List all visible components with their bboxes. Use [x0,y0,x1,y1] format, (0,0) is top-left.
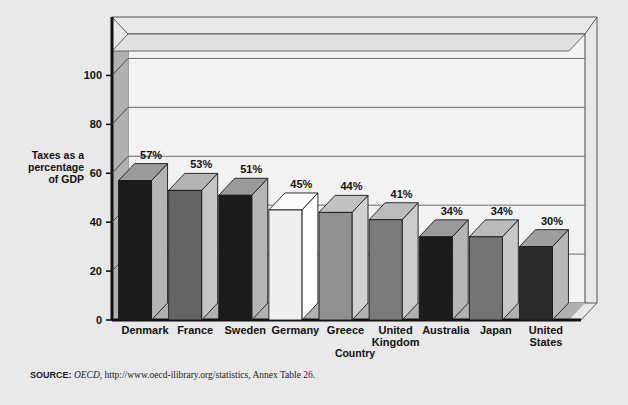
bar-side-face [202,173,218,320]
outer-frame-right [585,17,597,34]
x-axis-title: Country [335,347,375,359]
bar-front-face [369,220,402,320]
bar-value-label: 45% [290,178,312,190]
y-tick-label: 0 [96,314,102,326]
outer-frame-corner [112,17,128,34]
bar [469,220,518,320]
bar [369,203,418,320]
y-tick-label: 100 [84,69,102,81]
y-tick-label: 40 [90,216,102,228]
y-tick-labels: 020406080100 [84,69,102,326]
chart-figure: 020406080100 57%53%51%45%44%41%34%34%30%… [0,0,628,405]
bar-value-label: 41% [391,188,413,200]
x-category-label: Denmark [122,324,170,336]
bar-value-label: 53% [190,158,212,170]
bar [119,164,168,320]
x-category-label: Australia [422,324,470,336]
bar-front-face [319,212,352,320]
bar [219,178,268,320]
bar-value-label: 30% [541,215,563,227]
bar-front-face [419,237,452,320]
x-category-label: Sweden [224,324,266,336]
bar-chart-svg: 020406080100 57%53%51%45%44%41%34%34%30%… [0,0,628,405]
source-note: SOURCE: OECD, http://www.oecd-ilibrary.o… [30,370,315,380]
bar-value-label: 57% [140,149,162,161]
bar-value-label: 44% [340,180,362,192]
y-axis-title: Taxes as apercentageof GDP [28,149,84,185]
bar-front-face [219,195,252,320]
y-tick-label: 20 [90,265,102,277]
x-category-label: United [378,324,412,336]
x-category-label: Japan [480,324,512,336]
bar-front-face [469,237,502,320]
y-tick-label: 80 [90,118,102,130]
x-category-label: United [529,324,563,336]
bar [319,195,368,320]
bar-side-face [252,178,268,320]
source-label: SOURCE: [30,370,72,380]
outer-frame-bottom-right [581,303,597,320]
x-category-label: Greece [327,324,364,336]
bar [519,230,568,320]
bar-side-face [152,164,168,320]
bar-front-face [519,247,552,320]
x-category-label: Kingdom [372,336,420,348]
bar-value-label: 51% [240,163,262,175]
bar-side-face [352,195,368,320]
bar-side-face [302,193,318,320]
bar-value-label: 34% [441,205,463,217]
y-axis-title-line: of GDP [48,173,84,185]
bar-front-face [269,210,302,320]
y-axis-title-line: Taxes as a [32,149,85,161]
bar-side-face [402,203,418,320]
bar [169,173,218,320]
top-depth-strip [112,34,585,51]
y-axis-title-line: percentage [28,161,84,173]
bar-value-label: 34% [491,205,513,217]
bar-front-face [169,190,202,320]
source-rest: , http://www.oecd-ilibrary.org/statistic… [100,370,315,380]
x-category-labels: DenmarkFranceSwedenGermanyGreeceUnitedKi… [122,324,564,348]
source-publisher: OECD [74,370,100,380]
bar [269,193,318,320]
y-tick-label: 60 [90,167,102,179]
x-category-label: States [529,336,562,348]
x-category-label: France [177,324,213,336]
bar [419,220,468,320]
x-category-label: Germany [272,324,321,336]
bar-front-face [119,181,152,320]
